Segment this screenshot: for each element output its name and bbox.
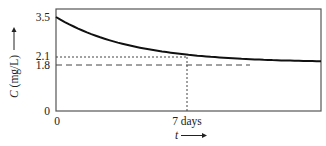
x-axis-title: t [175,129,179,141]
y-axis-unit: (mg/L) [8,55,21,91]
concentration-decay-chart: 3.5 2.1 1.8 0 0 7 days t C (mg/L) [0,0,326,146]
y-tick-0: 0 [44,105,50,117]
y-axis-title: C (mg/L) [8,55,21,98]
y-tick-1-8: 1.8 [36,59,51,71]
y-axis-arrow-icon [12,27,17,50]
y-tick-3-5: 3.5 [36,11,51,23]
x-tick-0: 0 [54,115,60,127]
x-axis-arrow-icon [181,133,207,138]
x-tick-7-days: 7 days [172,115,202,128]
concentration-curve [56,17,321,61]
